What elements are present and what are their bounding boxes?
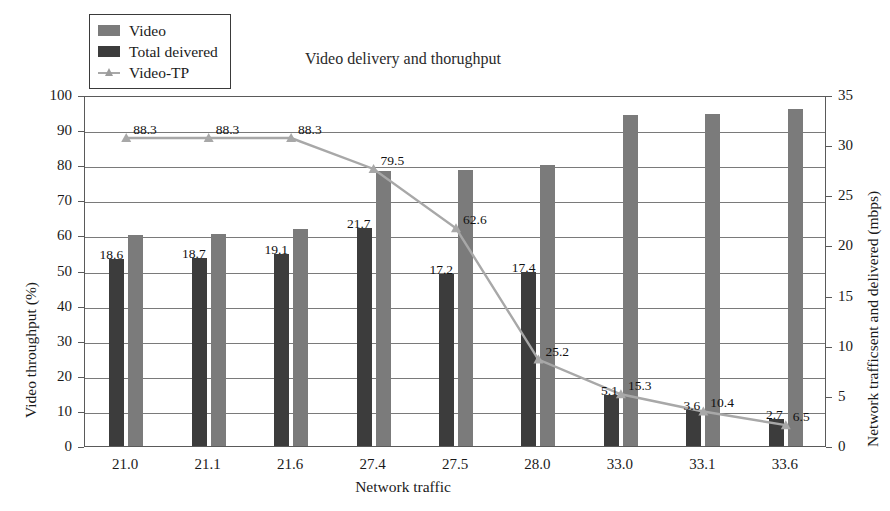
x-axis-tick-label: 28.0	[524, 456, 550, 473]
y-axis-left-tick-label: 80	[57, 158, 72, 173]
video-tp-value-label: 15.3	[628, 378, 652, 394]
video-tp-value-label: 62.6	[463, 212, 487, 228]
y-axis-left-tick-label: 100	[50, 88, 73, 103]
x-axis-tick-label: 27.5	[442, 456, 468, 473]
y-axis-left-tick-label: 40	[57, 299, 72, 314]
video-tp-value-label: 88.3	[298, 122, 322, 138]
plot-area: 18.618.719.121.717.217.45.13.62.7 88.388…	[84, 96, 826, 447]
legend-line-marker-icon	[98, 67, 120, 78]
bar-value-label: 2.7	[766, 407, 783, 423]
x-axis-tick-label: 27.4	[359, 456, 385, 473]
y-axis-right-tick-label: 15	[838, 289, 853, 304]
y-axis-left-tick-label: 20	[57, 369, 72, 384]
x-axis-tick-label: 33.1	[689, 456, 715, 473]
y-axis-left-tick-label: 10	[57, 404, 72, 419]
legend-label-video-tp: Video-TP	[129, 64, 189, 82]
bar-value-label: 21.7	[347, 216, 371, 232]
bar-value-label: 19.1	[264, 242, 288, 258]
legend-swatch-video-icon	[98, 25, 120, 36]
chart-legend: Video Total deivered Video-TP	[89, 14, 231, 89]
bar-value-label: 3.6	[683, 398, 700, 414]
y-axis-right-tick-label: 30	[838, 138, 853, 153]
x-axis-tick-label: 21.1	[195, 456, 221, 473]
bar-value-label: 17.2	[429, 262, 453, 278]
video-tp-value-label: 88.3	[216, 122, 240, 138]
bar-value-label: 5.1	[601, 383, 618, 399]
y-axis-right-title: Network trafficsent and delivered (mbps)	[864, 191, 882, 447]
bar-value-label: 17.4	[512, 260, 536, 276]
chart-root: Video Total deivered Video-TP Video deli…	[0, 0, 890, 511]
y-axis-left-tick-label: 50	[57, 264, 72, 279]
legend-item-video: Video	[98, 20, 218, 41]
legend-swatch-total-deivered-icon	[98, 46, 120, 57]
x-axis-tick-label: 33.6	[772, 456, 798, 473]
y-axis-right-tick-label: 0	[838, 439, 846, 454]
y-axis-left-tick-label: 30	[57, 334, 72, 349]
x-axis-tick-label: 33.0	[607, 456, 633, 473]
y-axis-left-tick-label: 60	[57, 228, 72, 243]
video-tp-value-label: 88.3	[133, 122, 157, 138]
x-axis-tick-label: 21.6	[277, 456, 303, 473]
bar-value-label: 18.7	[182, 246, 206, 262]
y-axis-left-tick-mark	[78, 447, 84, 448]
video-tp-polyline	[126, 138, 786, 425]
y-axis-right-tick-label: 5	[838, 389, 846, 404]
y-axis-right-tick-label: 25	[838, 188, 853, 203]
video-tp-value-label: 6.5	[793, 409, 810, 425]
y-axis-left-tick-label: 0	[65, 439, 73, 454]
legend-item-video-tp: Video-TP	[98, 62, 218, 83]
legend-item-total-deivered: Total deivered	[98, 41, 218, 62]
y-axis-right-tick-label: 20	[838, 238, 853, 253]
x-axis-tick-label: 21.0	[112, 456, 138, 473]
y-axis-right-tick-label: 35	[838, 88, 853, 103]
video-tp-value-label: 79.5	[381, 153, 405, 169]
video-tp-value-label: 25.2	[545, 344, 569, 360]
y-axis-right-tick-label: 10	[838, 339, 853, 354]
legend-label-total-deivered: Total deivered	[129, 43, 218, 61]
x-axis-title: Network traffic	[0, 478, 848, 496]
legend-label-video: Video	[129, 22, 166, 40]
y-axis-left-title: Video throughput (%)	[22, 282, 40, 418]
y-axis-left-tick-label: 70	[57, 193, 72, 208]
video-tp-value-label: 10.4	[710, 395, 734, 411]
bar-value-label: 18.6	[100, 247, 124, 263]
y-axis-left-tick-label: 90	[57, 123, 72, 138]
